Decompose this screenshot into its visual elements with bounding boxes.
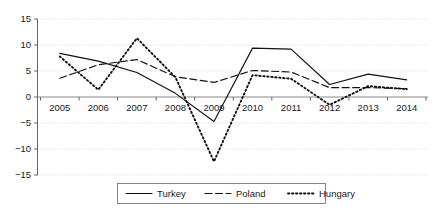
legend-label-turkey: Turkey xyxy=(157,188,186,199)
y-tick-label: −10 xyxy=(15,143,31,154)
x-axis-labels: 2005200620072008200920102011201220132014 xyxy=(49,102,417,113)
x-tick-label: 2010 xyxy=(242,102,263,113)
line-chart: 151050−5−10−15 2005200620072008200920102… xyxy=(0,0,441,214)
y-axis-labels: 151050−5−10−15 xyxy=(15,13,31,180)
x-tick-label: 2006 xyxy=(88,102,109,113)
x-tick-label: 2012 xyxy=(319,102,340,113)
legend-label-poland: Poland xyxy=(236,188,266,199)
chart-legend: TurkeyPolandHungary xyxy=(118,184,356,204)
x-tick-label: 2007 xyxy=(126,102,147,113)
legend-items: TurkeyPolandHungary xyxy=(126,188,355,199)
y-tick-label: 5 xyxy=(26,65,31,76)
y-tick-label: −15 xyxy=(15,169,31,180)
y-tick-label: 0 xyxy=(26,91,31,102)
chart-canvas: 151050−5−10−15 2005200620072008200920102… xyxy=(0,0,441,214)
x-tick-label: 2014 xyxy=(396,102,417,113)
y-tick-label: −5 xyxy=(20,117,31,128)
y-axis-ticks xyxy=(34,19,38,175)
x-axis-ticks xyxy=(41,97,427,101)
x-tick-label: 2013 xyxy=(358,102,379,113)
x-tick-label: 2011 xyxy=(281,102,301,113)
x-tick-label: 2005 xyxy=(49,102,70,113)
legend-label-hungary: Hungary xyxy=(319,188,355,199)
series-line-turkey xyxy=(60,48,407,121)
x-tick-label: 2008 xyxy=(165,102,186,113)
y-tick-label: 15 xyxy=(20,13,31,24)
y-tick-label: 10 xyxy=(20,39,31,50)
